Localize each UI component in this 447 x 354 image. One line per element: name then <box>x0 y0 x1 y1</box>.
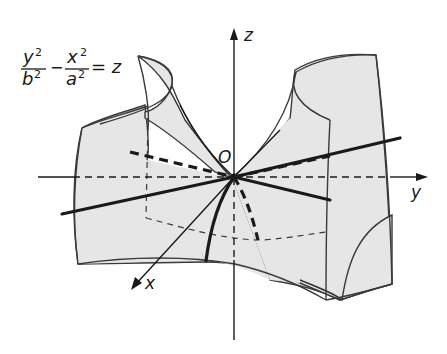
y-axis-label: y <box>410 182 422 202</box>
eq-y-exp: 2 <box>35 46 42 59</box>
origin-label: O <box>218 147 231 167</box>
eq-a-exp: 2 <box>78 68 85 81</box>
x-axis-label: x <box>144 273 156 293</box>
eq-b-exp: 2 <box>34 68 41 81</box>
eq-y-numerator: y <box>22 46 34 67</box>
eq-b-denominator: b <box>22 68 33 89</box>
origin-point <box>231 174 238 181</box>
z-axis-arrow-icon <box>230 28 238 40</box>
y-axis-arrow-icon <box>416 173 428 181</box>
eq-minus: − <box>50 58 63 77</box>
eq-x-exp: 2 <box>80 46 87 59</box>
eq-equals-z: = z <box>91 56 122 77</box>
saddle-surface-diagram: z y x O y 2 b 2 − x 2 a 2 = z <box>0 0 447 354</box>
eq-a-denominator: a <box>66 68 77 89</box>
equation: y 2 b 2 − x 2 a 2 = z <box>21 46 122 89</box>
eq-x-numerator: x <box>66 46 78 67</box>
z-axis-label: z <box>243 25 254 45</box>
